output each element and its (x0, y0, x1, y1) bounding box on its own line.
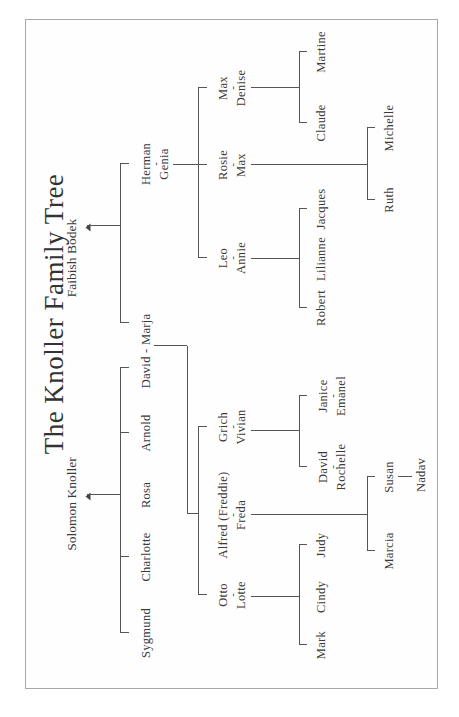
person-annie: Annie (235, 242, 248, 274)
person-lotte: Lotte (235, 581, 248, 609)
tick-line (367, 476, 375, 477)
tick-line (120, 163, 129, 164)
person-rosa: Rosa (140, 482, 153, 508)
connector-line (87, 225, 120, 226)
person-cindy: Cindy (315, 581, 328, 613)
tick-line (120, 322, 129, 323)
tick-line (299, 644, 307, 645)
person-claude: Claude (315, 104, 328, 141)
person-nadav: Nadav (415, 458, 428, 492)
bracket-line (367, 477, 368, 551)
bracket-line (299, 396, 300, 467)
connector-line (251, 596, 299, 597)
person-marcia: Marcia (383, 532, 396, 569)
tick-line (198, 164, 207, 165)
tick-line (299, 307, 307, 308)
tick-line (198, 594, 207, 595)
couple-david-marja: David - Marja (140, 314, 153, 389)
tick-line (299, 208, 307, 209)
tick-line (299, 395, 307, 396)
person-charlotte: Charlotte (140, 532, 153, 581)
connector-line (251, 87, 299, 88)
bracket-line (299, 209, 300, 308)
tick-line (198, 257, 207, 258)
family-tree-frame: The Knoller Family Tree Solomon Knoller … (25, 19, 438, 689)
person-sygmund: Sygmund (140, 608, 153, 658)
tick-line (367, 199, 375, 200)
tick-line (120, 367, 129, 368)
tree-title: The Knoller Family Tree (41, 174, 68, 455)
person-ruth: Ruth (383, 187, 396, 213)
tick-line (120, 632, 129, 633)
bracket-line (120, 164, 121, 323)
connector-line (251, 258, 299, 259)
root-faibish-bodek: Faibish Bodek (65, 219, 79, 297)
tick-line (120, 432, 129, 433)
bracket-line (299, 545, 300, 645)
person-judy: Judy (315, 533, 328, 558)
connector-line (173, 164, 198, 165)
person-martine: Martine (315, 31, 328, 73)
person-arnold: Arnold (140, 414, 153, 451)
connector-line (251, 430, 299, 431)
person-jacques: Jacques (315, 189, 328, 230)
person-emanel: Emanel (335, 376, 348, 416)
person-denise: Denise (235, 70, 248, 107)
connector-line (87, 494, 120, 495)
person-vivian: Vivian (235, 409, 248, 444)
bracket-line (367, 128, 368, 200)
tick-line (299, 544, 307, 545)
tick-line (299, 466, 307, 467)
connector-line (187, 346, 188, 514)
connector-line (187, 513, 198, 514)
tick-line (367, 127, 375, 128)
person-michelle: Michelle (383, 105, 396, 152)
root-solomon-knoller: Solomon Knoller (65, 457, 79, 550)
person-mark: Mark (315, 631, 328, 659)
tick-line (299, 122, 307, 123)
bracket-line (120, 368, 121, 633)
bracket-line (299, 52, 300, 123)
person-robert: Robert (315, 290, 328, 326)
person-susan: Susan (383, 461, 396, 492)
person-max-rosie-spouse: Max (235, 153, 248, 177)
person-freda: Freda (235, 500, 248, 530)
connector-line (251, 164, 367, 165)
tick-line (120, 556, 129, 557)
tick-line (299, 51, 307, 52)
bracket-line (198, 427, 199, 595)
connector-line (398, 476, 412, 477)
connector-line (154, 345, 187, 346)
person-genia: Genia (158, 148, 171, 179)
tick-line (198, 426, 207, 427)
tick-line (198, 87, 207, 88)
person-lilianne: Lilianne (315, 237, 328, 281)
connector-line (251, 514, 367, 515)
person-rochelle: Rochelle (335, 444, 348, 491)
bracket-line (198, 88, 199, 258)
tick-line (367, 550, 375, 551)
